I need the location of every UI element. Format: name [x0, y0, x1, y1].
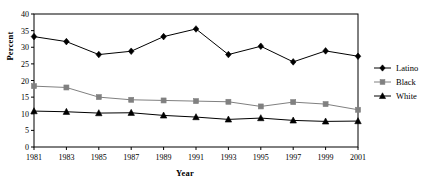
x-tick-label: 1981: [26, 153, 42, 162]
data-point: [258, 104, 263, 109]
data-point: [323, 102, 328, 107]
x-tick-label: 1991: [188, 153, 204, 162]
data-point: [96, 51, 102, 58]
y-tick-label: 30: [21, 43, 29, 52]
data-point: [161, 33, 167, 40]
x-tick-label: 1987: [123, 153, 139, 162]
line-chart-plot: 0510152025303540 19811983198519871989199…: [0, 0, 438, 187]
data-point: [64, 38, 70, 45]
data-point: [290, 59, 296, 66]
series-black: [32, 84, 361, 113]
data-point: [161, 98, 166, 103]
legend-item-white[interactable]: White: [374, 91, 417, 101]
legend-item-latino[interactable]: Latino: [374, 63, 418, 73]
data-point: [258, 43, 264, 50]
data-point: [226, 99, 231, 104]
y-axis-ticks: 0510152025303540: [21, 10, 34, 152]
x-tick-label: 1999: [318, 153, 334, 162]
x-tick-label: 1995: [253, 153, 269, 162]
legend-label: White: [396, 91, 417, 101]
x-axis-title: Year: [0, 168, 370, 178]
legend-item-black[interactable]: Black: [374, 77, 417, 87]
data-point: [32, 84, 37, 89]
x-tick-label: 1983: [58, 153, 74, 162]
data-point: [128, 48, 134, 55]
x-axis-ticks: 1981198319851987198919911993199519971999…: [26, 147, 366, 162]
x-tick-label: 1997: [285, 153, 301, 162]
data-point: [64, 85, 69, 90]
legend-label: Latino: [396, 63, 418, 73]
data-point: [194, 99, 199, 104]
data-point: [129, 97, 134, 102]
y-tick-label: 40: [21, 10, 29, 19]
legend-label: Black: [396, 77, 417, 87]
legend-marker: [380, 80, 385, 85]
chart-figure: 0510152025303540 19811983198519871989199…: [0, 0, 438, 187]
y-tick-label: 0: [25, 143, 29, 152]
x-tick-label: 2001: [350, 153, 366, 162]
data-series-layer: [31, 26, 361, 124]
y-tick-label: 25: [21, 60, 29, 69]
y-tick-label: 35: [21, 27, 29, 36]
y-tick-label: 10: [21, 110, 29, 119]
chart-legend: LatinoBlackWhite: [374, 63, 418, 101]
data-point: [193, 26, 199, 33]
data-point: [291, 100, 296, 105]
data-point: [323, 48, 329, 55]
data-point: [356, 107, 361, 112]
x-tick-label: 1985: [91, 153, 107, 162]
y-tick-label: 15: [21, 93, 29, 102]
x-tick-label: 1989: [156, 153, 172, 162]
data-point: [96, 95, 101, 100]
y-tick-label: 5: [25, 126, 29, 135]
legend-marker: [380, 65, 385, 71]
series-latino: [31, 26, 361, 66]
y-axis-title: Percent: [5, 16, 15, 76]
series-white: [31, 108, 361, 124]
plot-frame: [34, 14, 358, 147]
data-point: [226, 51, 232, 58]
data-point: [355, 53, 361, 60]
x-tick-label: 1993: [220, 153, 236, 162]
data-point: [31, 33, 37, 40]
y-tick-label: 20: [21, 77, 29, 86]
